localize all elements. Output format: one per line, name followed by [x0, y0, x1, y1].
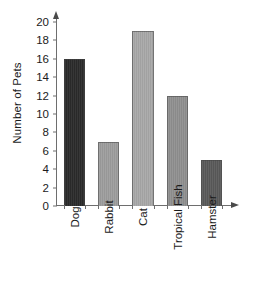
x-axis-category-label: Hamster	[174, 211, 250, 287]
bar-slot	[98, 22, 119, 206]
bar	[98, 142, 119, 206]
y-axis-tick-label: 12	[36, 90, 49, 102]
x-axis-category-label-text: Hamster	[206, 195, 218, 238]
bar	[132, 31, 153, 206]
bar	[64, 59, 85, 206]
bar-slot	[64, 22, 85, 206]
y-axis-title-text: Number of Pets	[11, 62, 23, 143]
y-axis-tick-label: 14	[36, 71, 49, 83]
x-axis-tick-mark	[132, 205, 133, 209]
bar-slot	[132, 22, 153, 206]
plot-area	[57, 22, 229, 206]
x-axis-tick-mark	[85, 205, 86, 209]
y-axis-tick-labels: 02468101214161820	[28, 22, 52, 206]
bar-slot	[201, 22, 222, 206]
x-axis-arrow-icon	[231, 202, 239, 208]
y-axis-title: Number of Pets	[6, 0, 28, 205]
x-axis-tick-mark	[64, 205, 65, 209]
x-axis-tick-mark	[188, 205, 189, 209]
x-axis-tick-mark	[119, 205, 120, 209]
x-axis-tick-mark	[201, 205, 202, 209]
y-axis-tick-label: 16	[36, 53, 49, 65]
x-axis-tick-mark	[222, 205, 223, 209]
x-axis-category-labels: DogRabbitCatTropical FishHamster	[57, 211, 229, 287]
bar-chart: Number of Pets 02468101214161820 DogRabb…	[0, 0, 253, 290]
y-axis-tick-label: 4	[43, 163, 49, 175]
x-axis-tick-mark	[154, 205, 155, 209]
y-axis-arrow-icon	[53, 11, 59, 19]
y-axis-tick-label: 10	[36, 108, 49, 120]
x-axis-tick-mark	[98, 205, 99, 209]
bar-slot	[167, 22, 188, 206]
y-axis-tick-label: 2	[43, 182, 49, 194]
y-axis-tick-label: 6	[43, 145, 49, 157]
x-axis-tick-mark	[167, 205, 168, 209]
y-axis-tick-label: 18	[36, 34, 49, 46]
y-axis-tick-label: 20	[36, 16, 49, 28]
y-axis-tick-label: 8	[43, 126, 49, 138]
